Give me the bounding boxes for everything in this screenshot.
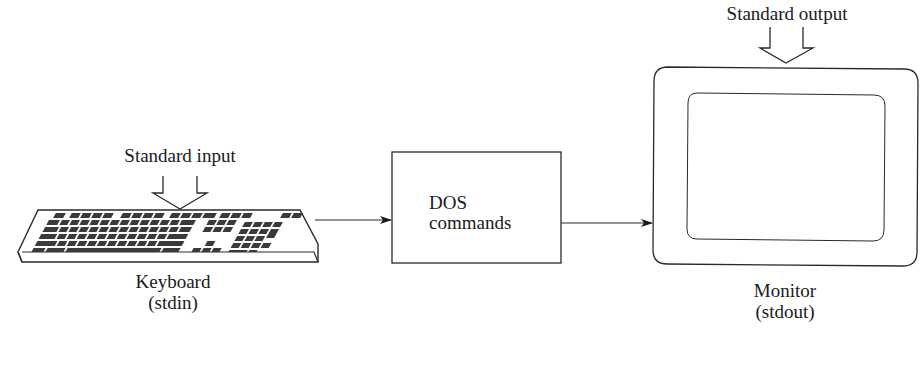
dos-commands-box: [392, 152, 561, 263]
monitor-label: Monitor: [730, 280, 840, 302]
standard-input-label: Standard input: [104, 145, 256, 167]
dos-commands-label-line2: commands: [429, 210, 511, 235]
stdout-label: (stdout): [730, 301, 840, 323]
keyboard-icon: [18, 210, 318, 262]
monitor-icon: [653, 67, 918, 266]
standard-output-arrow-icon: [760, 27, 813, 63]
keyboard-label: Keyboard: [118, 271, 228, 293]
standard-input-arrow-icon: [153, 176, 207, 209]
stdin-label: (stdin): [118, 292, 228, 314]
standard-output-label: Standard output: [707, 3, 867, 25]
